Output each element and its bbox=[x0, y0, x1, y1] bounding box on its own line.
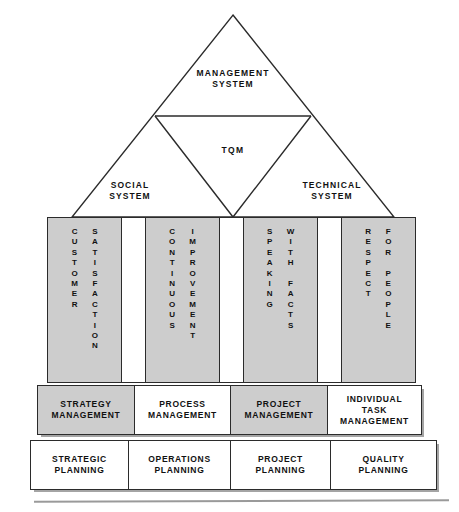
label-project-planning: PROJECT PLANNING bbox=[256, 454, 306, 476]
label-quality-planning: QUALITY PLANNING bbox=[359, 454, 409, 476]
pillar-word-right-respect-for-people: FOR PEOPLE bbox=[385, 227, 391, 331]
tqm-label: TQM bbox=[193, 145, 273, 156]
cell-process-management: PROCESS MANAGEMENT bbox=[134, 385, 231, 435]
label-process-management: PROCESS MANAGEMENT bbox=[148, 399, 217, 421]
pillar-continuous-improvement: CONTINUOUSIMPROVEMENT bbox=[145, 217, 220, 383]
pillar-word-left-respect-for-people: RESPECT bbox=[365, 227, 371, 331]
pillar-pillar-gap-2 bbox=[219, 217, 244, 383]
cell-individual-task-management: INDIVIDUAL TASK MANAGEMENT bbox=[327, 385, 422, 435]
pillar-customer-satisfaction: CUSTOMERSATISFACTION bbox=[47, 217, 122, 383]
planning-row: STRATEGIC PLANNINGOPERATIONS PLANNINGPRO… bbox=[30, 440, 437, 490]
social-system-label: SOCIAL SYSTEM bbox=[84, 180, 176, 202]
cell-strategy-management: STRATEGY MANAGEMENT bbox=[37, 385, 135, 435]
technical-system-label: TECHNICAL SYSTEM bbox=[278, 180, 386, 202]
label-strategic-planning: STRATEGIC PLANNING bbox=[52, 454, 107, 476]
pillar-word-left-customer-satisfaction: CUSTOMER bbox=[71, 227, 78, 352]
pillar-word-right-speaking-with-facts: WITH FACTS bbox=[287, 227, 295, 331]
pillar-text-customer-satisfaction: CUSTOMERSATISFACTION bbox=[71, 227, 98, 352]
pillar-respect-for-people: RESPECTFOR PEOPLE bbox=[341, 217, 416, 383]
cell-quality-planning: QUALITY PLANNING bbox=[330, 440, 437, 490]
pillar-band: CUSTOMERSATISFACTIONCONTINUOUSIMPROVEMEN… bbox=[47, 217, 415, 383]
pillar-text-respect-for-people: RESPECTFOR PEOPLE bbox=[365, 227, 391, 331]
tqm-pyramid-diagram: MANAGEMENT SYSTEM TQM SOCIAL SYSTEM TECH… bbox=[0, 0, 459, 512]
label-project-management: PROJECT MANAGEMENT bbox=[245, 399, 314, 421]
cell-operations-planning: OPERATIONS PLANNING bbox=[128, 440, 231, 490]
pillar-text-speaking-with-facts: SPEAKINGWITH FACTS bbox=[267, 227, 295, 331]
management-row: STRATEGY MANAGEMENTPROCESS MANAGEMENTPRO… bbox=[37, 385, 422, 435]
label-strategy-management: STRATEGY MANAGEMENT bbox=[52, 399, 121, 421]
pillar-speaking-with-facts: SPEAKINGWITH FACTS bbox=[243, 217, 318, 383]
pillar-word-left-continuous-improvement: CONTINUOUS bbox=[169, 227, 175, 341]
management-system-label: MANAGEMENT SYSTEM bbox=[163, 68, 303, 90]
pillar-pillar-gap-1 bbox=[121, 217, 146, 383]
pillar-word-left-speaking-with-facts: SPEAKING bbox=[267, 227, 273, 331]
cell-project-management: PROJECT MANAGEMENT bbox=[230, 385, 328, 435]
pillar-word-right-continuous-improvement: IMPROVEMENT bbox=[189, 227, 196, 341]
cell-project-planning: PROJECT PLANNING bbox=[230, 440, 331, 490]
pillar-word-right-customer-satisfaction: SATISFACTION bbox=[92, 227, 98, 352]
pillar-text-continuous-improvement: CONTINUOUSIMPROVEMENT bbox=[169, 227, 196, 341]
label-individual-task-management: INDIVIDUAL TASK MANAGEMENT bbox=[340, 394, 409, 427]
pillar-pillar-gap-3 bbox=[317, 217, 342, 383]
cell-strategic-planning: STRATEGIC PLANNING bbox=[30, 440, 129, 490]
label-operations-planning: OPERATIONS PLANNING bbox=[148, 454, 211, 476]
